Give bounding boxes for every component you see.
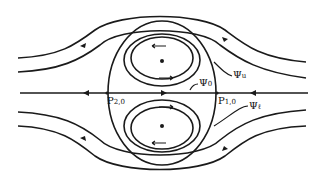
label-p10: P1,0 [218,96,236,106]
label-p20: P2,0 [107,96,125,106]
arrow-icon [222,146,228,151]
label-psi-l: Ψℓ [249,101,261,111]
streamline-diagram [0,0,323,185]
streamline-top-inner [18,31,306,78]
arrow-icon [161,90,167,96]
vortex-center-bottom [160,124,164,128]
arrow-icon [80,136,86,141]
streamline-bottom-outer [18,126,306,170]
label-psi-u: Ψu [233,70,246,80]
arrow-icon [250,90,256,96]
streamline-top-outer [18,17,306,63]
vortex-center-top [160,59,164,63]
arrow-icon [80,43,86,48]
arrow-icon [222,37,228,42]
label-psi-0: Ψ0 [199,78,212,88]
arrow-icon [83,90,89,96]
